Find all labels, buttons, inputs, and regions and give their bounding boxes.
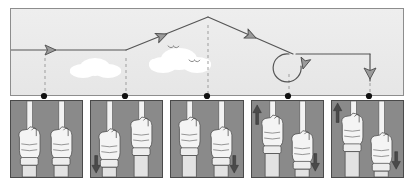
hand-illustration-5 — [332, 101, 403, 177]
figure-root — [0, 0, 414, 190]
panel-5-left-up-right-down — [331, 100, 404, 178]
hand-right — [371, 133, 392, 166]
sleeve-left — [345, 152, 359, 177]
hand-left — [99, 129, 120, 162]
cuff-left — [20, 158, 38, 166]
sleeve-right — [215, 165, 229, 177]
hand-right — [51, 127, 72, 160]
hand-left — [261, 115, 282, 148]
sky-background — [11, 9, 404, 96]
panel-1-neutral — [10, 100, 83, 178]
cuff-right — [52, 158, 70, 166]
sleeve-left — [102, 167, 116, 177]
hand-illustration-3 — [171, 101, 242, 177]
panel-4-left-up-right-down — [251, 100, 324, 178]
cuff-left — [263, 146, 281, 154]
sleeve-right — [295, 169, 309, 177]
flight-path-diagram — [11, 9, 404, 96]
panel-2-right-stick-back — [90, 100, 163, 178]
cuff-left — [343, 144, 361, 152]
sleeve-right — [54, 165, 68, 177]
hand-illustration-1 — [11, 101, 82, 177]
cuff-left — [181, 148, 199, 156]
hand-left — [19, 127, 40, 160]
cuff-left — [101, 159, 119, 167]
sleeve-left — [265, 154, 279, 177]
hand-illustration-4 — [252, 101, 323, 177]
sleeve-left — [22, 165, 36, 177]
cuff-right — [372, 163, 390, 171]
sleeve-right — [134, 156, 148, 177]
hand-illustration-2 — [91, 101, 162, 177]
hand-left — [342, 113, 363, 146]
hand-left — [179, 117, 200, 150]
cuff-right — [132, 148, 150, 156]
hand-panels-row — [10, 100, 404, 178]
sleeve-left — [183, 156, 197, 177]
cuff-right — [293, 161, 311, 169]
sky-panel — [10, 8, 404, 96]
panel-3-left-stick-back — [170, 100, 243, 178]
hand-right — [211, 127, 232, 160]
hand-right — [131, 117, 152, 150]
sleeve-right — [374, 171, 388, 177]
hand-right — [291, 131, 312, 164]
cuff-right — [213, 158, 231, 166]
